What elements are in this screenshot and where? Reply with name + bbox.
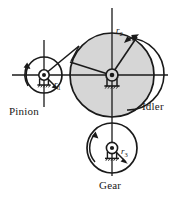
gear-radius-label: r3 [121, 147, 128, 158]
pinion-hub [37, 70, 50, 88]
pinion-radius-subscript: 1 [58, 84, 61, 91]
gear-label: Gear [99, 180, 121, 191]
pinion-label: Pinion [9, 106, 39, 117]
idler-radius-label: r2 [116, 26, 123, 37]
gear-train-diagram: Pinion Idler Gear r1 r2 r3 [0, 0, 180, 201]
pinion-radius-label: r1 [54, 80, 61, 91]
idler-radius-subscript: 2 [120, 30, 123, 37]
gear-hub [105, 142, 119, 160]
idler-hub [104, 69, 119, 89]
gear-radius-subscript: 3 [125, 151, 128, 158]
idler-label: Idler [142, 101, 164, 112]
